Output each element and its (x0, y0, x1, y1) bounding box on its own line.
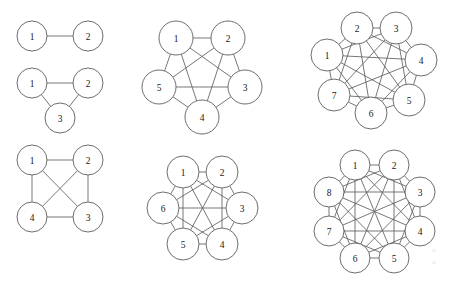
graph-edge (330, 71, 331, 79)
graph-edge (404, 176, 409, 181)
graph-node: 3 (405, 177, 435, 207)
graph-node: 1 (159, 21, 193, 55)
complete-graph-k7: 1234567 (311, 12, 437, 129)
graph-edge (171, 222, 175, 230)
graph-node: 2 (73, 145, 103, 175)
complete-graph-k5: 12345 (142, 21, 262, 134)
graph-edge (341, 63, 395, 93)
complete-graph-k3: 123 (17, 68, 103, 133)
graph-node: 6 (355, 97, 387, 129)
graph-node: 5 (142, 70, 176, 104)
node-label: 3 (394, 24, 399, 34)
node-label: 1 (325, 51, 330, 61)
node-label: 2 (226, 34, 231, 44)
node-label: 2 (392, 161, 397, 171)
k3-nodes: 123 (17, 68, 103, 133)
graph-figure: 12123123412345123456123456712345678 ≈≈ (0, 0, 449, 284)
graph-node: 3 (380, 12, 412, 44)
scan-artifact: ≈ (432, 246, 436, 257)
graph-node: 4 (405, 44, 437, 76)
graph-edge (348, 102, 356, 106)
node-label: 4 (200, 113, 205, 123)
graph-node: 8 (314, 177, 344, 207)
graph-node: 4 (17, 202, 47, 232)
graph-edge (181, 54, 196, 101)
graph-edge (366, 176, 410, 221)
graph-node: 6 (340, 243, 370, 273)
complete-graph-k6: 123456 (147, 156, 258, 260)
node-label: 1 (30, 32, 35, 42)
graph-canvas: 12123123412345123456123456712345678 (0, 0, 449, 284)
node-label: 5 (157, 83, 162, 93)
graph-edge (230, 222, 234, 230)
k7-nodes: 1234567 (311, 12, 437, 129)
graph-node: 2 (379, 150, 409, 180)
graph-edge (366, 203, 410, 248)
node-label: 4 (418, 227, 423, 237)
graph-node: 1 (17, 21, 47, 51)
node-label: 7 (332, 91, 337, 101)
graph-node: 4 (206, 228, 238, 260)
graph-node: 3 (73, 202, 103, 232)
node-label: 8 (327, 188, 332, 198)
node-label: 5 (407, 96, 412, 106)
node-label: 3 (86, 213, 91, 223)
node-label: 2 (86, 156, 91, 166)
graph-edge (386, 105, 394, 108)
node-label: 1 (30, 79, 35, 89)
node-label: 1 (30, 156, 35, 166)
graph-edge (207, 54, 222, 101)
graph-edge (171, 186, 175, 194)
graph-node: 2 (206, 156, 238, 188)
graph-node: 5 (379, 243, 409, 273)
graph-node: 4 (405, 216, 435, 246)
node-label: 2 (355, 24, 360, 34)
node-label: 2 (86, 79, 91, 89)
node-label: 4 (419, 56, 424, 66)
graph-node: 7 (314, 216, 344, 246)
graph-edge (343, 56, 405, 59)
graph-node: 3 (226, 192, 258, 224)
graph-edge (216, 97, 231, 108)
graph-edge (360, 44, 369, 97)
scan-artifact: ≈ (432, 258, 436, 269)
graph-edge (339, 176, 344, 181)
graph-edge (69, 95, 78, 107)
graph-node: 2 (73, 21, 103, 51)
graph-edge (406, 41, 411, 48)
graph-edge (234, 54, 240, 71)
node-label: 3 (58, 114, 63, 124)
complete-graph-k4: 1234 (17, 145, 103, 232)
graph-edge (340, 203, 384, 248)
node-label: 3 (243, 83, 248, 93)
graph-node: 2 (73, 68, 103, 98)
graph-edge (340, 176, 384, 221)
node-label: 6 (353, 254, 358, 264)
graph-node: 2 (341, 12, 373, 44)
node-label: 3 (240, 204, 245, 214)
graph-edge (41, 95, 50, 107)
graph-edge (230, 186, 234, 194)
graph-node: 3 (45, 103, 75, 133)
node-label: 3 (418, 188, 423, 198)
graph-node: 6 (147, 192, 179, 224)
graph-node: 7 (318, 79, 350, 111)
graph-edge (165, 54, 171, 71)
node-label: 5 (181, 240, 186, 250)
graph-edge (404, 242, 409, 247)
graph-node: 1 (340, 150, 370, 180)
graph-node: 5 (393, 84, 425, 116)
graph-node: 1 (17, 145, 47, 175)
graph-node: 3 (228, 70, 262, 104)
graph-edge (339, 39, 345, 45)
node-label: 1 (353, 161, 358, 171)
graph-node: 4 (185, 100, 219, 134)
graph-edge (414, 75, 417, 84)
graph-node: 1 (167, 156, 199, 188)
graph-node: 2 (211, 21, 245, 55)
graph-edge (339, 242, 344, 247)
node-label: 6 (161, 204, 166, 214)
k8-edges (329, 165, 420, 258)
graph-edge (173, 97, 188, 108)
graph-node: 1 (17, 68, 47, 98)
